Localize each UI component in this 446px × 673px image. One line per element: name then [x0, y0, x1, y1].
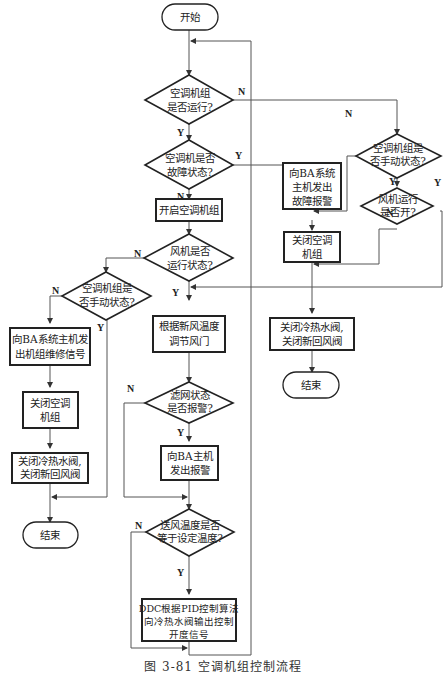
decision-text: 故障状态? — [167, 166, 213, 178]
process-text: 关闭空调 — [292, 234, 332, 246]
process-text: DDC根据PID控制算法 — [139, 603, 239, 614]
label-n: N — [345, 108, 353, 119]
process-text: 开度信号 — [169, 629, 209, 640]
decision-fan-open: 风机运行 是否开? — [361, 188, 433, 224]
process-text: 机组 — [302, 248, 323, 260]
decision-text: 风机是否 — [170, 245, 211, 257]
label-y: Y — [177, 427, 185, 438]
decision-text: 运行状态? — [167, 259, 213, 271]
connectors — [50, 30, 442, 655]
decision-text: 滤网状态 — [170, 389, 211, 401]
process-text: 开启空调机组 — [159, 204, 220, 216]
flowchart-canvas: 开始 空调机组 是否运行? N Y 空调机是否 故障状态? Y N 开启空调机组… — [0, 0, 446, 673]
process-ddc-pid-control: DDC根据PID控制算法 向冷热水阀输出控制 开度信号 — [139, 599, 239, 641]
process-send-maintenance-signal: 向BA系统主机发 出机组维修信号 — [10, 328, 90, 365]
figure-caption: 图 3-81 空调机组控制流程 — [144, 659, 302, 673]
decision-text: 是否报警? — [167, 402, 213, 414]
process-close-valves-middle: 关闭冷热水阀, 关闭新回风阀 — [270, 318, 354, 350]
label-n: N — [386, 207, 394, 218]
decision-text: 否手动状态? — [370, 155, 426, 167]
process-text: 关闭新回风阀 — [20, 468, 80, 480]
label-n: N — [127, 383, 135, 394]
process-close-valves-left: 关闭冷热水阀, 关闭新回风阀 — [12, 453, 88, 483]
label-y: Y — [97, 322, 105, 333]
process-text: 关闭冷热水阀, — [280, 321, 343, 333]
process-start-unit: 开启空调机组 — [156, 199, 222, 221]
process-close-unit-middle: 关闭空调 机组 — [284, 232, 340, 262]
decision-filter-alarm: 滤网状态 是否报警? — [145, 382, 233, 423]
process-text: 向冷热水阀输出控制 — [144, 616, 234, 627]
decision-manual-left: 空调机组是 否手动状态? — [62, 272, 151, 320]
end-label: 结束 — [40, 529, 61, 541]
label-n: N — [238, 86, 246, 97]
process-text: 关闭冷热水阀, — [18, 455, 81, 467]
process-text: 出机组维修信号 — [15, 348, 85, 360]
process-close-unit-left: 关闭空调 机组 — [23, 392, 78, 428]
decision-text: 是否运行? — [167, 101, 213, 113]
decision-fan-running: 风机是否 运行状态? — [144, 234, 233, 281]
label-y: Y — [172, 287, 180, 298]
label-y: Y — [235, 150, 243, 161]
label-y: Y — [389, 176, 397, 187]
decision-manual-right: 空调机组是 否手动状态? — [356, 134, 441, 178]
decision-text: 空调机组是 — [373, 142, 424, 154]
process-text: 关闭空调 — [30, 397, 70, 409]
decision-text: 风机运行 — [378, 193, 419, 205]
process-text: 向BA主机 — [167, 450, 213, 462]
label-n: N — [52, 285, 60, 296]
start-terminal: 开始 — [162, 4, 218, 30]
process-text: 根据新风温度 — [159, 320, 220, 332]
process-text: 主机发出 — [292, 181, 332, 193]
process-text: 故障报警 — [292, 195, 333, 207]
process-text: 关闭新回风阀 — [282, 335, 342, 347]
process-alarm-ba: 向BA主机 发出报警 — [161, 446, 218, 480]
decision-text: 送风温度是否 — [160, 519, 221, 531]
label-y: Y — [434, 177, 442, 188]
decision-text: 空调机组是 — [82, 282, 133, 294]
decision-text: 空调机组 — [170, 87, 211, 99]
decision-unit-fault: 空调机是否 故障状态? — [145, 140, 233, 189]
process-text: 发出报警 — [170, 464, 211, 476]
process-text: 机组 — [40, 411, 61, 423]
label-y: Y — [177, 127, 185, 138]
decision-text: 空调机是否 — [165, 152, 216, 164]
label-n: N — [135, 520, 143, 531]
decision-text: 否手动状态? — [79, 296, 135, 308]
process-adjust-damper: 根据新风温度 调节风门 — [153, 316, 225, 352]
end-terminal-middle: 结束 — [283, 372, 339, 398]
start-label: 开始 — [180, 11, 201, 23]
process-text: 调节风门 — [169, 335, 209, 347]
decision-unit-running: 空调机组 是否运行? — [145, 75, 233, 124]
process-fault-alarm: 向BA系统 主机发出 故障报警 — [283, 163, 341, 209]
decision-supply-temperature: 送风温度是否 等于设定温度? — [146, 509, 234, 556]
label-n: N — [134, 248, 142, 259]
decision-text: 等于设定温度? — [157, 532, 223, 544]
process-text: 向BA系统 — [289, 167, 335, 179]
end-label: 结束 — [301, 379, 322, 391]
process-text: 向BA系统主机发 — [12, 333, 88, 345]
end-terminal-left: 结束 — [23, 522, 78, 548]
label-y: Y — [177, 567, 185, 578]
